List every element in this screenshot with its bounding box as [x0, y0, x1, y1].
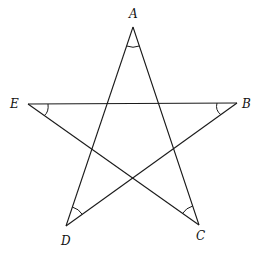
- edge-a-c: [133, 27, 199, 225]
- label-b: B: [241, 97, 251, 111]
- label-d: D: [60, 234, 71, 248]
- edge-b-d: [66, 103, 237, 226]
- label-e: E: [9, 97, 19, 111]
- angle-mark-a: [127, 46, 140, 47]
- edge-a-d: [66, 27, 133, 226]
- label-c: C: [196, 229, 205, 243]
- edges: [28, 27, 237, 226]
- angle-mark-c: [183, 206, 193, 213]
- edge-e-c: [28, 104, 199, 225]
- angle-mark-b: [216, 103, 220, 115]
- vertex-labels: A B C D E: [9, 7, 251, 248]
- label-a: A: [128, 7, 138, 21]
- angle-marks: [44, 46, 221, 214]
- edge-e-b: [28, 103, 237, 104]
- pentagram-diagram: A B C D E: [0, 0, 266, 253]
- angle-mark-e: [44, 104, 48, 116]
- angle-mark-d: [72, 207, 82, 214]
